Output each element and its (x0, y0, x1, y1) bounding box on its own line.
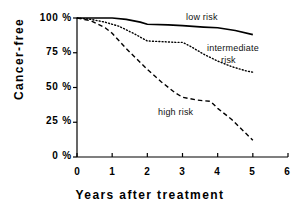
annotation-intermediate-risk: risk (221, 55, 236, 65)
data-series-group (77, 18, 253, 140)
annotation-high-risk: high risk (158, 107, 193, 117)
plot-canvas (0, 0, 300, 212)
survival-curve-figure: Cancer-free 100 % 75 % 50 % 25 % 0 % 0 1… (0, 0, 300, 212)
annotation-intermediate: intermediate (207, 43, 259, 53)
series-low-risk (77, 18, 253, 35)
x-axis-title: Years after treatment (0, 188, 300, 202)
series-high-risk (77, 18, 253, 140)
annotation-low-risk: low risk (186, 12, 218, 22)
